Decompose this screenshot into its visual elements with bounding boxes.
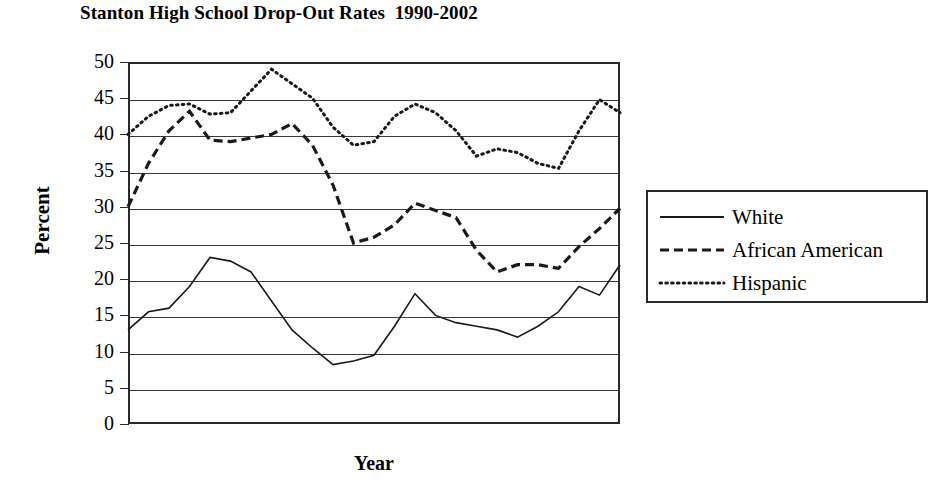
legend-swatch-icon <box>658 268 726 298</box>
legend-item-african-american[interactable]: African American <box>658 235 922 265</box>
x-axis-title: Year <box>128 452 620 475</box>
legend-label: White <box>732 203 783 231</box>
legend-swatch-icon <box>658 202 726 232</box>
legend-label: Hispanic <box>732 269 807 297</box>
legend-label: African American <box>732 236 883 264</box>
series-line-hispanic <box>128 69 620 168</box>
legend-swatch-icon <box>658 235 726 265</box>
series-line-african-american <box>128 111 620 272</box>
chart-legend: WhiteAfrican AmericanHispanic <box>646 190 928 303</box>
series-line-white <box>128 257 620 364</box>
chart-figure: Stanton High School Drop-Out Rates 1990-… <box>0 0 943 499</box>
legend-item-white[interactable]: White <box>658 202 922 232</box>
legend-item-hispanic[interactable]: Hispanic <box>658 268 922 298</box>
